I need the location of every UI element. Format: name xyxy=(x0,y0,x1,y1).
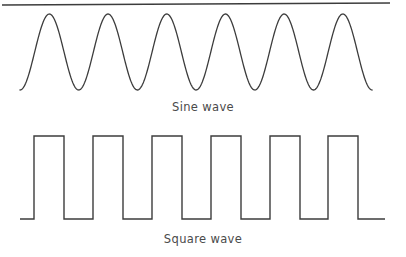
waveform-figure: Sine wave Square wave xyxy=(0,0,406,257)
sine-wave-caption: Sine wave xyxy=(0,100,406,114)
square-wave-caption: Square wave xyxy=(0,232,406,246)
square-wave-curve xyxy=(20,136,385,219)
sine-wave-curve xyxy=(20,14,372,90)
waveform-canvas xyxy=(0,0,406,257)
top-divider-rule xyxy=(2,3,390,5)
